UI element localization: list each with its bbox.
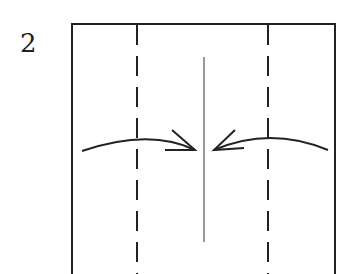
left-fold-arrow-icon — [82, 130, 195, 151]
fold-diagram — [0, 0, 352, 274]
right-fold-arrow-icon — [214, 130, 328, 150]
